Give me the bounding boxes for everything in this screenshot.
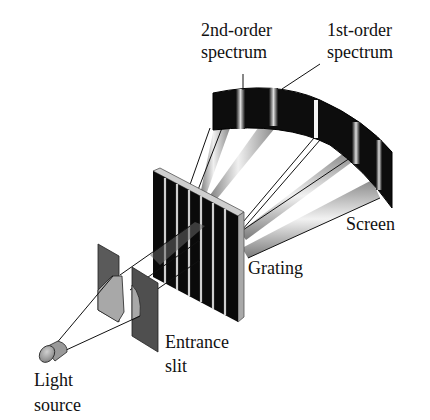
aperture-plate	[98, 244, 124, 322]
label-light-source-line1: Light	[34, 370, 73, 390]
leader-1st-order	[282, 64, 320, 89]
diagram-canvas	[0, 0, 430, 420]
spectrum-line-1st-a	[352, 122, 360, 164]
spectrum-line-2nd-b	[269, 88, 278, 126]
light-source	[36, 341, 67, 365]
label-entrance-slit-line1: Entrance	[165, 332, 229, 352]
entrance-slit	[132, 267, 158, 352]
light-cone	[55, 276, 140, 351]
spectrum-line-2nd-a	[236, 89, 245, 129]
label-1st-order-line1: 1st-order	[327, 20, 392, 40]
label-1st-order-line2: spectrum	[327, 42, 393, 62]
label-entrance-slit-line2: slit	[165, 356, 187, 376]
spectrum-line-1st-b	[376, 140, 382, 190]
spectrum-line-center	[314, 100, 318, 138]
label-2nd-order-line1: 2nd-order	[201, 20, 272, 40]
grating	[150, 168, 244, 322]
label-2nd-order-line2: spectrum	[201, 42, 267, 62]
label-light-source-line2: source	[34, 395, 81, 415]
label-grating: Grating	[248, 258, 303, 278]
label-screen: Screen	[346, 214, 395, 234]
spectrometer-diagram: 2nd-order spectrum 1st-order spectrum Sc…	[0, 0, 430, 420]
